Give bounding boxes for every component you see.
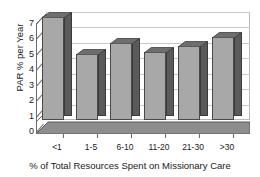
bar-front-face — [42, 17, 64, 120]
y-axis-tick-label: 1 — [22, 112, 34, 121]
bar-side-face — [132, 39, 140, 116]
bar-top-face — [76, 49, 106, 55]
gridline — [46, 12, 250, 13]
y-axis-tick-label: 0 — [22, 127, 34, 136]
x-axis-tick-label: >30 — [207, 142, 247, 152]
bar-front-face — [144, 52, 166, 120]
bar — [76, 54, 98, 120]
bar-front-face — [212, 37, 234, 120]
bar-top-face — [110, 38, 140, 44]
bar-top-face — [178, 41, 208, 47]
x-axis-label: % of Total Resources Spent on Missionary… — [0, 160, 260, 171]
bar-front-face — [76, 54, 98, 120]
y-axis-tick-label: 3 — [22, 81, 34, 90]
bar-side-face — [200, 42, 208, 116]
bar-front-face — [178, 46, 200, 120]
bar-side-face — [64, 13, 72, 116]
bar — [178, 46, 200, 120]
x-axis-tick — [199, 134, 200, 138]
bar — [212, 37, 234, 120]
y-axis-tick-label: 5 — [22, 50, 34, 59]
bar-side-face — [166, 48, 174, 116]
plot-floor — [36, 120, 250, 134]
bar-front-face — [110, 43, 132, 120]
bar-top-face — [212, 32, 242, 38]
x-axis-tick — [233, 134, 234, 138]
x-axis-tick — [63, 134, 64, 138]
bar-top-face — [144, 47, 174, 53]
bar-top-face — [42, 12, 72, 18]
y-axis-tick-label: 2 — [22, 96, 34, 105]
bar-side-face — [98, 50, 106, 116]
y-axis-tick-label: 4 — [22, 65, 34, 74]
bar — [110, 43, 132, 120]
x-axis-tick — [165, 134, 166, 138]
plot-area — [36, 12, 250, 134]
bar-side-face — [234, 33, 242, 116]
bar — [42, 17, 64, 120]
bar — [144, 52, 166, 120]
x-axis-tick — [97, 134, 98, 138]
x-axis-tick — [131, 134, 132, 138]
y-axis-tick-label: 7 — [22, 19, 34, 28]
y-axis-tick-label: 6 — [22, 34, 34, 43]
bar-chart: PAR % per Year 01234567 <11-56-1011-2021… — [0, 0, 260, 177]
gridline — [46, 27, 250, 28]
